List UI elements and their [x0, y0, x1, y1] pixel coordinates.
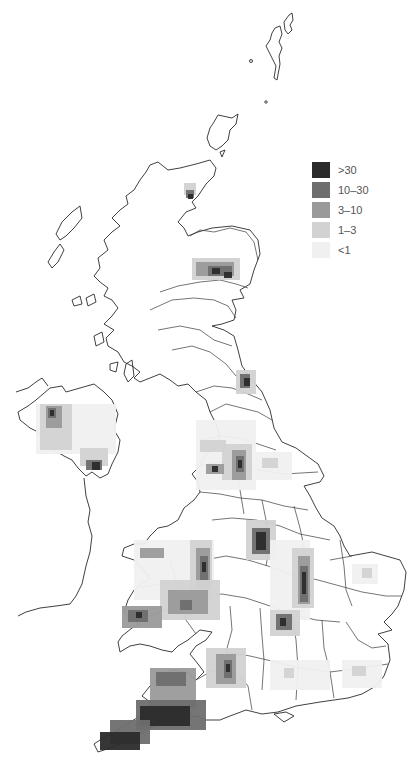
- legend-label: 10–30: [338, 184, 369, 196]
- legend-item-gt30: >30: [312, 160, 369, 180]
- legend-label: 3–10: [338, 204, 362, 216]
- legend-item-3-10: 3–10: [312, 200, 369, 220]
- legend-label: >30: [338, 164, 357, 176]
- legend-item-10-30: 10–30: [312, 180, 369, 200]
- map-legend: >30 10–30 3–10 1–3 <1: [312, 160, 369, 260]
- orkney-islands: [207, 114, 238, 157]
- legend-swatch: [312, 242, 330, 258]
- isle-of-wight: [274, 712, 294, 722]
- ireland-coast: [18, 478, 92, 616]
- legend-swatch: [312, 162, 330, 178]
- legend-label: 1–3: [338, 224, 356, 236]
- shetland-islands: [250, 13, 294, 103]
- legend-item-1-3: 1–3: [312, 220, 369, 240]
- legend-swatch: [312, 202, 330, 218]
- legend-label: <1: [338, 244, 351, 256]
- legend-swatch: [312, 222, 330, 238]
- legend-item-lt1: <1: [312, 240, 369, 260]
- uk-map: [0, 0, 418, 766]
- legend-swatch: [312, 182, 330, 198]
